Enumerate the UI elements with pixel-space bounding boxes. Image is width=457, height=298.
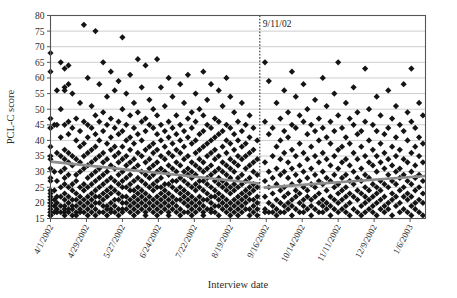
y-tick-label: 60 [35,73,45,83]
data-point [389,144,395,150]
data-point [219,103,225,109]
x-tick-label: 6/24/2002 [137,223,163,260]
data-point [331,153,337,159]
data-point [139,84,145,90]
data-point [96,119,102,125]
data-point [127,72,133,78]
data-point [235,119,241,125]
data-point [397,147,403,153]
data-point [393,134,399,140]
data-point [73,115,79,121]
data-point [169,140,175,146]
data-point [231,131,237,137]
data-point [374,94,380,100]
data-point [166,134,172,140]
data-point [189,109,195,115]
x-tick-label: 4/29/2002 [65,223,91,260]
data-point [293,172,299,178]
data-point [85,75,91,81]
x-tick-label: 8/19/2002 [209,223,235,260]
data-point [139,137,145,143]
data-point [166,75,172,81]
data-point [196,106,202,112]
data-point [347,162,353,168]
data-point [123,122,129,128]
data-point [158,137,164,143]
data-point [173,131,179,137]
data-point [77,100,83,106]
data-point [308,212,314,218]
data-point [416,100,422,106]
y-tick-label: 80 [35,11,45,21]
data-point [370,147,376,153]
data-point [331,90,337,96]
data-point [239,100,245,106]
data-point [408,119,414,125]
data-point [331,128,337,134]
data-point [115,78,121,84]
data-point [162,128,168,134]
data-point [289,212,295,218]
x-tick-label: 12/9/2002 [353,223,379,260]
x-tick-label: 4/1/2002 [31,223,55,256]
data-point [262,159,268,165]
data-point [166,119,172,125]
data-point [401,81,407,87]
data-point [320,169,326,175]
y-tick-label: 35 [35,151,45,161]
data-point [112,125,118,131]
data-point [181,100,187,106]
data-point [65,131,71,137]
data-point [108,69,114,75]
data-point [177,81,183,87]
data-point [270,190,276,196]
data-point [297,112,303,118]
data-point [104,140,110,146]
data-point [300,169,306,175]
data-point [193,119,199,125]
data-point [119,34,125,40]
data-point [219,144,225,150]
data-point [223,150,229,156]
x-tick-label: 9/16/2002 [245,223,271,260]
x-axis-title: Interview date [208,279,269,290]
x-tick-labels-group: 4/1/20024/29/20025/27/20026/24/20027/22/… [31,222,415,263]
y-axis-title: PCL-C score [5,89,16,144]
data-point [385,87,391,93]
data-point [181,144,187,150]
y-tick-label: 45 [35,120,45,130]
data-point [404,109,410,115]
data-point [304,106,310,112]
data-point [350,122,356,128]
data-point [408,150,414,156]
data-point [297,178,303,184]
data-point [162,144,168,150]
data-point [320,125,326,131]
data-point [347,140,353,146]
data-point [62,87,68,93]
data-point [362,65,368,71]
data-point [169,94,175,100]
data-point [154,131,160,137]
data-point [246,112,252,118]
data-point [54,87,60,93]
data-point [158,84,164,90]
data-point [285,175,291,181]
data-point [297,162,303,168]
data-point [304,156,310,162]
data-point [277,115,283,121]
data-point [389,162,395,168]
data-point [362,119,368,125]
data-point [347,115,353,121]
data-point [266,78,272,84]
data-point [92,112,98,118]
event-label: 9/11/02 [263,19,292,29]
data-point [270,125,276,131]
data-point [350,150,356,156]
data-point [354,109,360,115]
data-point [92,28,98,34]
data-point [88,103,94,109]
data-point [358,144,364,150]
data-point [262,119,268,125]
data-point [150,106,156,112]
